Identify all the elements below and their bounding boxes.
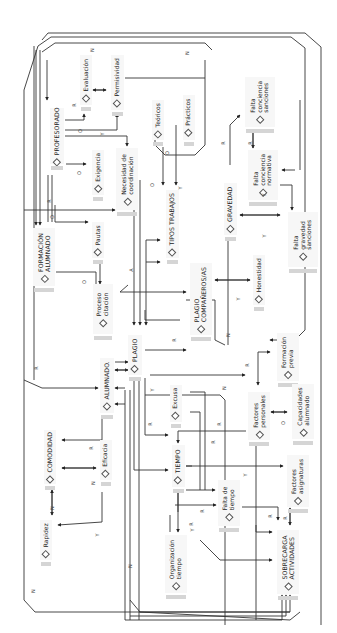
node-badge: [173, 489, 184, 493]
node-honestidad[interactable]: Honestidad: [253, 255, 265, 305]
node-eficacia[interactable]: Eficacia: [100, 440, 112, 480]
node-badge: [81, 107, 91, 111]
node-factores-personales[interactable]: Factores personales: [248, 392, 270, 440]
node-label: PROFESORADO: [54, 107, 61, 155]
edge-label: R: [88, 446, 94, 449]
edge-label: R: [171, 338, 177, 341]
edge-label: R: [267, 514, 273, 517]
node-capacidades-alumnado[interactable]: Capacidades alumnado: [292, 384, 314, 439]
edge-label: R: [210, 440, 216, 443]
edge-label: R: [220, 141, 226, 144]
node-tiempo[interactable]: TIEMPO: [172, 445, 185, 487]
node-label: Falta conciencia normativa: [253, 154, 273, 186]
node-badge: [171, 424, 181, 428]
edge-label: N: [184, 51, 190, 55]
node-practicos[interactable]: Prácticos: [183, 95, 195, 140]
node-badge: [184, 142, 194, 146]
node-badge: [117, 212, 137, 216]
edge-label: O: [149, 183, 155, 187]
edge-label: Y: [99, 132, 105, 135]
node-falta-gravedad-sanciones[interactable]: Falta gravedad sanciones: [288, 212, 318, 267]
diamond-icon: [174, 476, 182, 484]
node-formacion-alumnado[interactable]: FORMACIÓN ALUMNADO: [33, 228, 55, 286]
diamond-icon: [256, 116, 264, 124]
node-excusa[interactable]: Excusa: [170, 385, 182, 422]
node-label: Eficacia: [103, 443, 110, 466]
node-label: Excusa: [173, 388, 180, 409]
node-label: Proceso citación: [97, 292, 110, 315]
diamond-icon: [113, 99, 121, 107]
node-permisividad[interactable]: Permisividad: [111, 55, 124, 110]
node-falta-tiempo[interactable]: Falta de tiempo: [218, 480, 240, 526]
diamond-icon: [172, 581, 180, 589]
edge-label: Y: [261, 234, 267, 237]
node-label: PLAGIO: [132, 338, 139, 362]
node-badge: [166, 595, 186, 599]
node-pautas[interactable]: Pautas: [92, 222, 104, 258]
node-necesidad-coordinacion[interactable]: Necesidad de coordinación: [116, 148, 138, 210]
node-label: COMODIDAD: [47, 432, 54, 473]
diamond-icon: [225, 513, 233, 521]
edge-label: Y: [149, 388, 155, 391]
node-factores-asignaturas[interactable]: Factores asignaturas: [287, 455, 309, 507]
node-rapidez[interactable]: Rapidez: [40, 520, 52, 560]
node-badge: [167, 260, 178, 264]
node-plagio[interactable]: PLAGIO: [128, 335, 142, 375]
node-label: Falta conciencia sanciones: [250, 81, 270, 113]
node-label: PLAGIO COMPAÑEROS/AS: [195, 266, 208, 321]
node-badge: [51, 166, 63, 170]
edge-label: N: [90, 481, 96, 485]
diamond-icon: [255, 295, 263, 303]
node-evaluacion[interactable]: Evaluación: [80, 55, 92, 105]
node-teoricos[interactable]: Teóricos: [152, 100, 164, 140]
node-gravedad[interactable]: GRAVEDAD: [224, 183, 237, 235]
diamond-icon: [284, 370, 292, 378]
edge-label: Y: [235, 297, 241, 300]
node-exigencia[interactable]: Exigencia: [92, 150, 104, 195]
node-proceso-citacion[interactable]: Proceso citación: [93, 284, 113, 334]
edge-label: R: [216, 422, 222, 425]
node-organizacion-tiempo[interactable]: Organización tiempo: [165, 535, 187, 593]
node-label: Teóricos: [155, 103, 162, 127]
node-label: Factores asignaturas: [292, 458, 305, 493]
node-label: Pautas: [95, 225, 102, 245]
diamond-icon: [46, 475, 54, 483]
node-profesorado[interactable]: PROFESORADO: [50, 108, 64, 164]
diamond-icon: [168, 248, 176, 256]
node-badge: [249, 442, 269, 446]
edge-label: N: [127, 564, 133, 568]
node-formacion-previa[interactable]: Formación previa: [277, 333, 299, 381]
node-alumnado[interactable]: ALUMNADO.: [100, 358, 114, 413]
diamond-icon: [299, 428, 307, 436]
edge-label: Y: [94, 533, 100, 536]
edge-label: Y: [242, 473, 248, 476]
diamond-icon: [172, 412, 180, 420]
edge-label: R: [147, 422, 153, 425]
node-sobrecarga-actividades[interactable]: SOBRECARGA ACTIVIDADES: [277, 530, 299, 594]
node-badge: [34, 288, 54, 292]
node-label: GRAVEDAD: [227, 186, 234, 221]
node-label: Organización tiempo: [170, 539, 183, 578]
diamond-icon: [103, 402, 111, 410]
node-badge: [93, 197, 103, 201]
node-badge: [94, 336, 112, 340]
node-label: Formación previa: [282, 336, 295, 367]
edge-label: N: [30, 589, 36, 593]
edge-label: R: [247, 141, 253, 144]
node-plagio-companeros[interactable]: PLAGIO COMPAÑEROS/AS: [190, 263, 212, 335]
node-badge: [101, 482, 111, 486]
diamond-icon: [102, 469, 110, 477]
node-comodidad[interactable]: COMODIDAD: [44, 430, 56, 484]
diamond-icon: [299, 252, 307, 260]
diamond-icon: [185, 129, 193, 137]
edge-label: A: [128, 268, 134, 271]
node-badge: [129, 377, 141, 381]
diamond-icon: [197, 324, 205, 332]
edge-label: O: [77, 129, 83, 133]
diamond-icon: [94, 248, 102, 256]
node-falta-conciencia-sanciones[interactable]: Falta conciencia sanciones: [245, 77, 275, 127]
diamond-icon: [42, 550, 50, 558]
diamond-icon: [94, 185, 102, 193]
edge-label: N: [49, 506, 55, 510]
node-tipos-trabajos[interactable]: TIPOS TRABAJOS: [166, 190, 179, 258]
